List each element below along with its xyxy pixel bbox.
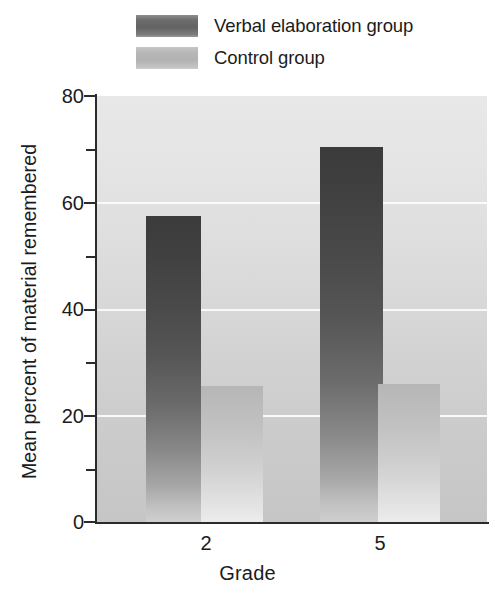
chart-legend: Verbal elaboration group Control group xyxy=(136,12,476,76)
legend-item-control-group: Control group xyxy=(136,44,476,72)
y-tick-60 xyxy=(84,202,96,204)
legend-swatch-icon-verbal-elaboration-group xyxy=(136,15,198,37)
bar-grade5-verbal-elaboration-group xyxy=(320,147,383,522)
legend-label-control-group: Control group xyxy=(214,47,325,69)
x-axis-line xyxy=(95,522,489,524)
x-tick-label-grade-5: 5 xyxy=(360,532,400,554)
y-tick-10 xyxy=(86,469,96,471)
y-tick-40 xyxy=(84,309,96,311)
gridline-60 xyxy=(97,202,487,204)
y-axis-title: Mean percent of material remembered xyxy=(18,102,41,522)
x-axis-title: Grade xyxy=(0,562,495,585)
y-tick-30 xyxy=(86,362,96,364)
y-tick-0 xyxy=(84,521,96,523)
y-tick-80 xyxy=(84,95,96,97)
legend-label-verbal-elaboration-group: Verbal elaboration group xyxy=(214,15,413,37)
plot-area xyxy=(97,96,487,522)
y-tick-50 xyxy=(86,256,96,258)
legend-item-verbal-elaboration-group: Verbal elaboration group xyxy=(136,12,476,40)
bar-grade5-control-group xyxy=(378,384,440,522)
bar-grade2-verbal-elaboration-group xyxy=(146,216,201,522)
legend-swatch-icon-control-group xyxy=(136,47,198,69)
y-tick-70 xyxy=(86,149,96,151)
x-tick-label-grade-2: 2 xyxy=(186,532,226,554)
bar-chart-figure: Verbal elaboration group Control group 8… xyxy=(0,0,495,597)
bar-grade2-control-group xyxy=(201,386,263,522)
y-tick-20 xyxy=(84,415,96,417)
